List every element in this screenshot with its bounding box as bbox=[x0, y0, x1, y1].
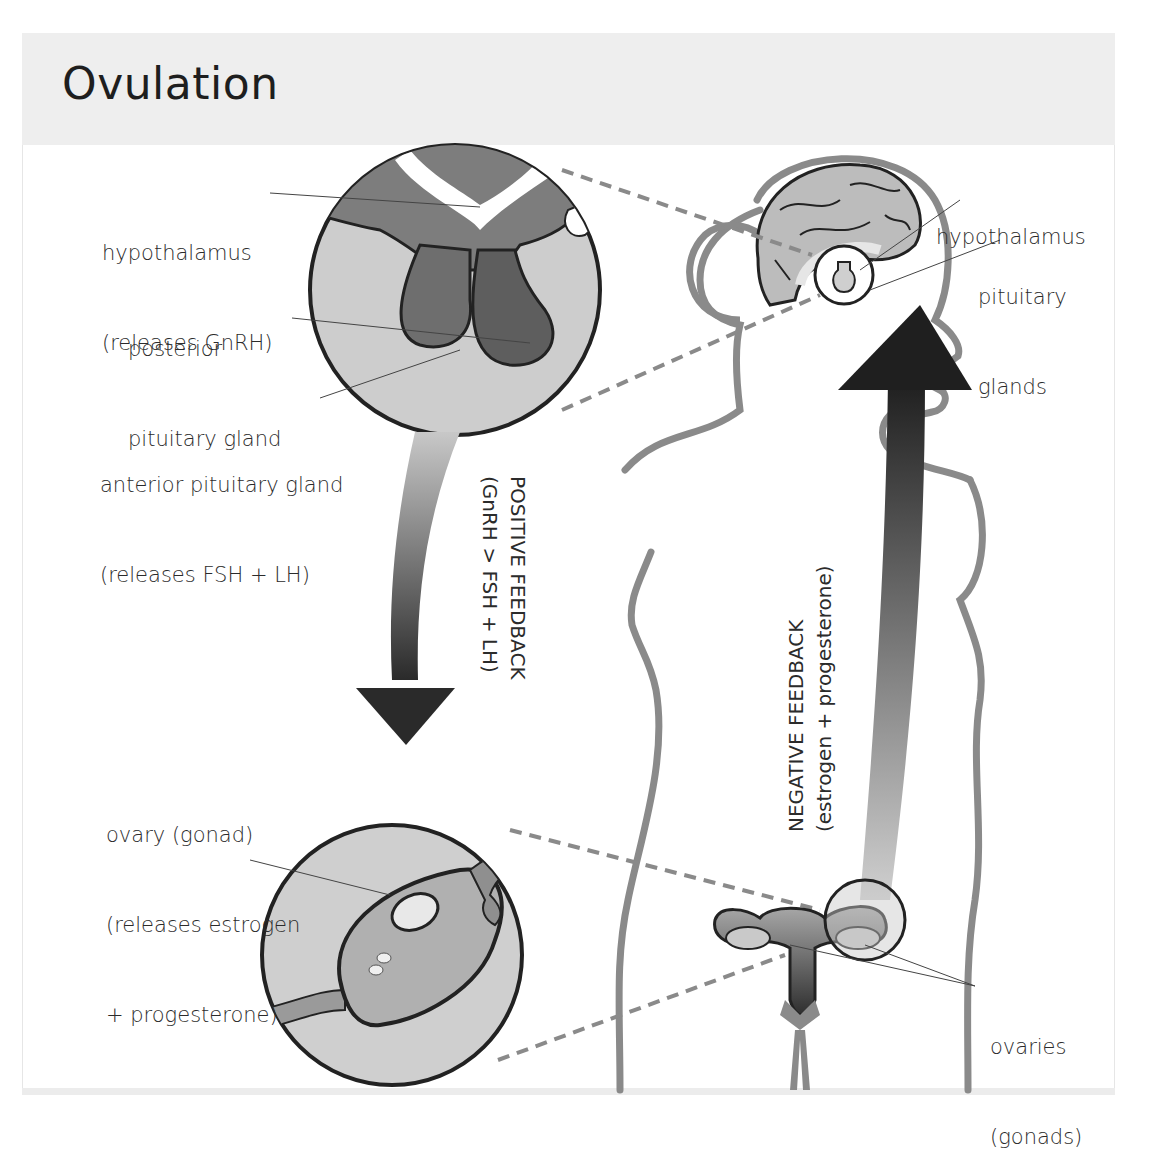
label-line: (gonads) bbox=[990, 1122, 1082, 1152]
positive-feedback-arrow bbox=[356, 432, 460, 745]
label-line: anterior pituitary gland bbox=[100, 470, 343, 500]
label-line: ovary (gonad) bbox=[106, 820, 300, 850]
negative-feedback-arrow bbox=[838, 305, 972, 900]
positive-feedback-label: POSITIVE FEEDBACK (GnRH > FSH + LH) bbox=[476, 476, 532, 680]
label-line: ovaries bbox=[990, 1032, 1082, 1062]
ovary-zoom-circle-large bbox=[260, 825, 530, 1085]
pituitary-zoom-circle-small bbox=[815, 246, 873, 304]
uterus-icon bbox=[715, 880, 905, 1090]
label-ovaries-right: ovaries (gonads) bbox=[990, 972, 1082, 1152]
label-anterior-pituitary: anterior pituitary gland (releases FSH +… bbox=[100, 410, 343, 620]
feedback-title: NEGATIVE FEEDBACK bbox=[782, 565, 810, 832]
feedback-hormones: (estrogen + progesterone) bbox=[810, 565, 838, 832]
label-line: (releases estrogen bbox=[106, 910, 300, 940]
label-line: (releases FSH + LH) bbox=[100, 560, 343, 590]
pituitary-zoom-circle-large bbox=[300, 140, 620, 435]
label-line: posterior bbox=[128, 334, 281, 364]
label-line: glands bbox=[978, 372, 1067, 402]
feedback-title: POSITIVE FEEDBACK bbox=[504, 476, 532, 680]
dashed-connectors-ovary bbox=[498, 830, 820, 1060]
label-line: hypothalamus bbox=[102, 238, 273, 268]
feedback-hormones: (GnRH > FSH + LH) bbox=[476, 476, 504, 680]
label-line: + progesterone) bbox=[106, 1000, 300, 1030]
label-ovary-left: ovary (gonad) (releases estrogen + proge… bbox=[106, 760, 300, 1060]
label-pituitary-glands: pituitary glands bbox=[978, 222, 1067, 432]
negative-feedback-label: NEGATIVE FEEDBACK (estrogen + progestero… bbox=[782, 565, 838, 832]
label-line: pituitary bbox=[978, 282, 1067, 312]
